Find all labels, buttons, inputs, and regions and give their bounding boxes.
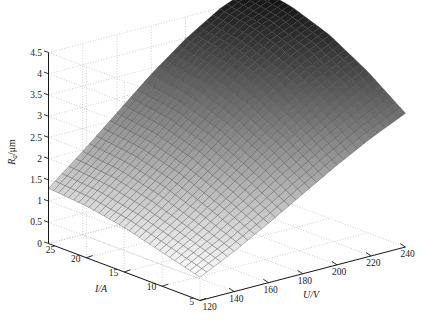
- svg-text:1: 1: [37, 196, 42, 206]
- svg-text:4: 4: [37, 69, 42, 79]
- plot-canvas: 00.511.522.533.544.525201510512014016018…: [0, 0, 436, 321]
- svg-text:25: 25: [46, 245, 56, 255]
- svg-text:200: 200: [332, 267, 347, 277]
- svg-text:240: 240: [400, 249, 415, 259]
- svg-text:180: 180: [298, 276, 313, 286]
- svg-text:Ra/μm: Ra/μm: [6, 139, 19, 166]
- svg-text:5: 5: [189, 297, 194, 307]
- svg-text:U/V: U/V: [303, 289, 321, 300]
- svg-text:2: 2: [37, 154, 42, 164]
- svg-text:I/A: I/A: [94, 283, 108, 294]
- axis-title-x: U/V: [303, 289, 321, 300]
- svg-text:20: 20: [71, 254, 81, 264]
- axis-title-y: I/A: [94, 283, 108, 294]
- svg-text:10: 10: [147, 282, 157, 292]
- svg-text:120: 120: [202, 302, 217, 312]
- surface-mesh: [49, 0, 406, 277]
- svg-text:3: 3: [37, 111, 42, 121]
- svg-text:140: 140: [229, 294, 244, 304]
- axis-title-z: Ra/μm: [6, 139, 19, 166]
- svg-text:3.5: 3.5: [30, 90, 42, 100]
- svg-text:4.5: 4.5: [30, 48, 42, 58]
- svg-text:0.5: 0.5: [30, 217, 42, 227]
- svg-text:2.5: 2.5: [30, 133, 42, 143]
- svg-text:220: 220: [366, 258, 381, 268]
- svg-text:0: 0: [37, 239, 42, 249]
- svg-text:1.5: 1.5: [30, 175, 42, 185]
- figure-3d-surface-plot: 00.511.522.533.544.525201510512014016018…: [0, 0, 436, 321]
- svg-text:15: 15: [109, 268, 119, 278]
- svg-text:160: 160: [263, 285, 278, 295]
